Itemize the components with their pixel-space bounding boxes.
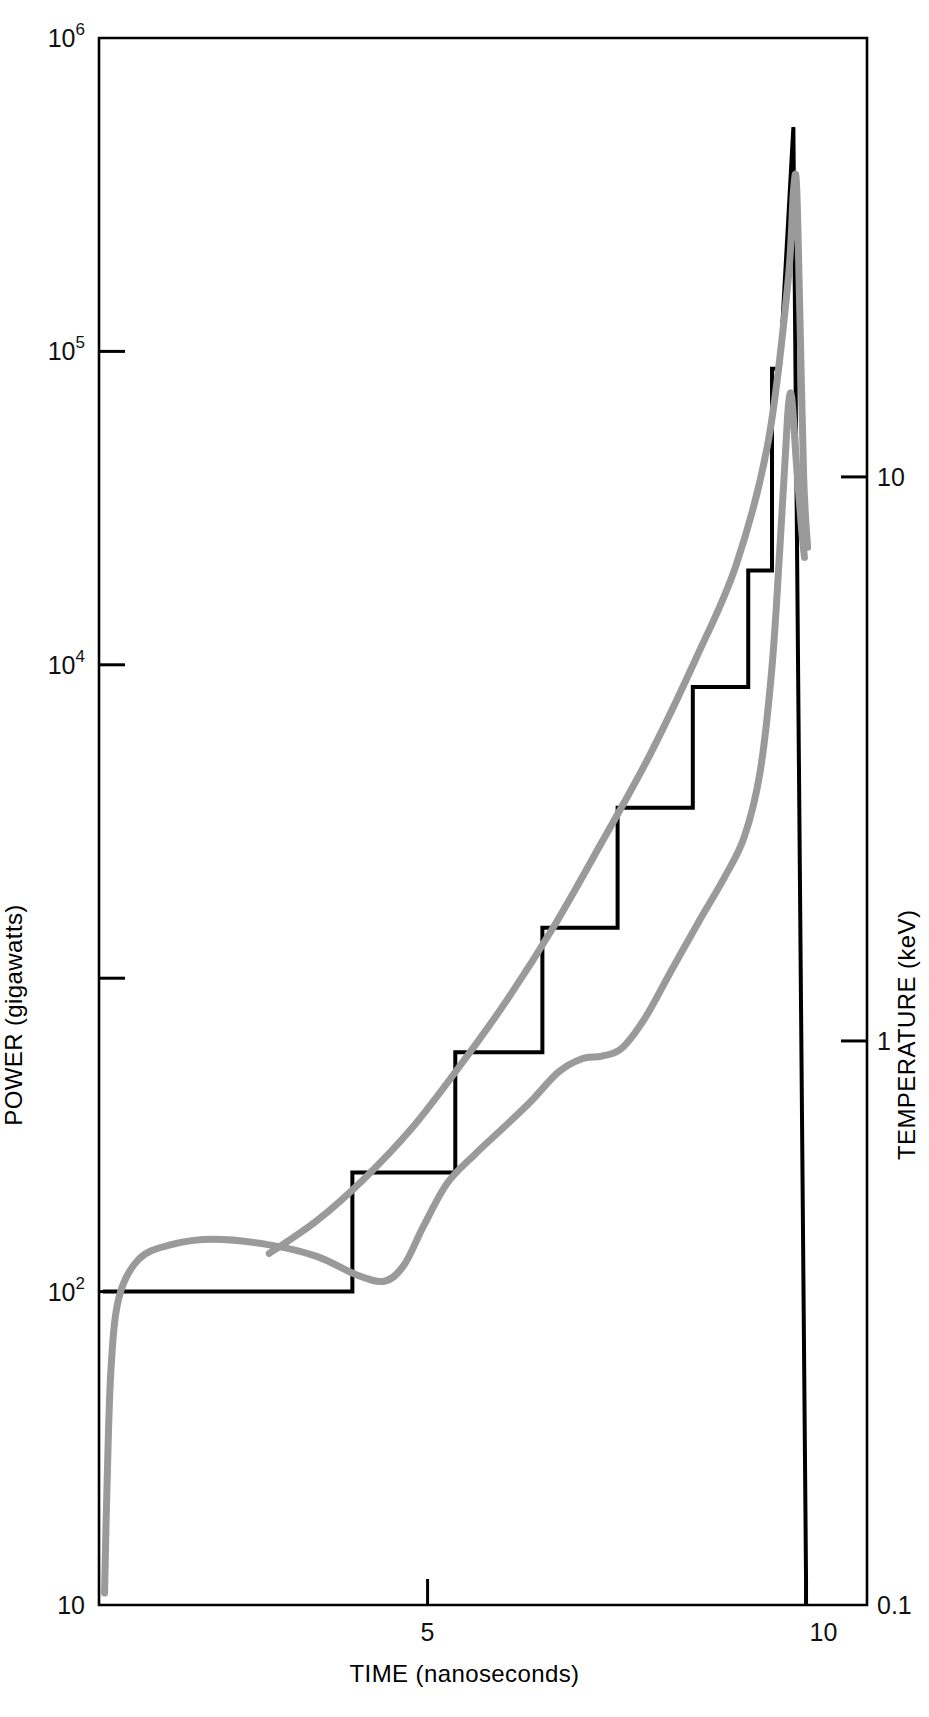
x-axis-title: TIME (nanoseconds)	[0, 1660, 929, 1688]
y2-axis-tick-label: 0.1	[877, 1591, 912, 1619]
x-axis-tick-label: 5	[421, 1618, 435, 1646]
y-axis-title: POWER (gigawatts)	[0, 805, 28, 1225]
y-axis-tick-label: 10	[57, 1591, 85, 1619]
y2-axis-tick-label: 1	[877, 1027, 891, 1055]
x-axis-tick-label: 10	[810, 1618, 838, 1646]
y2-axis-tick-label: 10	[877, 463, 905, 491]
chart-figure: 101021041051060.1110510 POWER (gigawatts…	[0, 0, 929, 1717]
power-temperature-plot: 101021041051060.1110510	[0, 0, 929, 1717]
y2-axis-title: TEMPERATURE (keV)	[893, 700, 921, 1160]
